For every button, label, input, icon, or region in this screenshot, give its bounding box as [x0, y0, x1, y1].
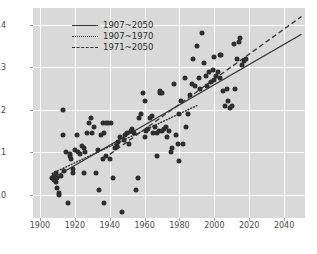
y-tick-label: 12: [0, 106, 6, 115]
chart-figure: 1907~2050 1907~1970 1971~2050 1011121314…: [0, 0, 317, 254]
data-point: [186, 112, 191, 117]
data-point: [88, 116, 93, 121]
data-point: [205, 84, 210, 89]
data-point: [132, 131, 137, 136]
x-tick-mark: [249, 218, 250, 221]
data-point: [137, 116, 142, 121]
data-point: [111, 175, 116, 180]
data-point: [109, 120, 114, 125]
data-point: [60, 107, 65, 112]
legend-label: 1907~2050: [103, 21, 153, 30]
data-point: [191, 56, 196, 61]
data-point: [154, 154, 159, 159]
data-point: [177, 112, 182, 117]
data-point: [196, 76, 201, 81]
data-point: [65, 201, 70, 206]
data-point: [177, 158, 182, 163]
data-point: [60, 133, 65, 138]
y-tick-label: 13: [0, 63, 6, 72]
data-point: [233, 86, 238, 91]
data-point: [167, 129, 172, 134]
data-point: [217, 76, 222, 81]
data-point: [170, 146, 175, 151]
data-point: [146, 126, 151, 131]
data-point: [53, 179, 58, 184]
data-point: [236, 39, 241, 44]
legend-swatch-solid-icon: [72, 21, 98, 30]
legend-swatch-dotted-icon: [72, 32, 98, 41]
data-point: [194, 44, 199, 49]
data-point: [142, 135, 147, 140]
data-point: [71, 171, 76, 176]
y-tick-label: 11: [0, 148, 6, 157]
data-point: [62, 169, 67, 174]
data-point: [172, 82, 177, 87]
data-point: [219, 52, 224, 57]
plot-area: 1907~2050 1907~1970 1971~2050: [33, 8, 305, 218]
y-tick-mark: [30, 195, 33, 196]
data-point: [107, 156, 112, 161]
x-tick-mark: [110, 218, 111, 221]
data-point: [140, 90, 145, 95]
data-point: [78, 152, 83, 157]
x-tick-mark: [284, 218, 285, 221]
data-point: [102, 201, 107, 206]
data-point: [229, 103, 234, 108]
data-point: [97, 188, 102, 193]
y-tick-mark: [30, 110, 33, 111]
x-tick-mark: [75, 218, 76, 221]
data-point: [57, 192, 62, 197]
data-point: [243, 56, 248, 61]
data-point: [231, 42, 236, 47]
y-tick-label: 14: [0, 21, 6, 30]
data-point: [83, 150, 88, 155]
data-point: [58, 173, 63, 178]
x-tick-mark: [179, 218, 180, 221]
data-point: [160, 90, 165, 95]
data-point: [69, 156, 74, 161]
legend-label: 1971~2050: [103, 43, 153, 52]
data-point: [142, 99, 147, 104]
data-point: [149, 114, 154, 119]
data-point: [74, 133, 79, 138]
data-point: [201, 61, 206, 66]
data-point: [165, 135, 170, 140]
data-point: [200, 31, 205, 36]
data-point: [224, 86, 229, 91]
data-point: [119, 209, 124, 214]
data-point: [93, 171, 98, 176]
legend-item: 1907~2050: [72, 21, 153, 30]
y-tick-mark: [30, 67, 33, 68]
data-point: [180, 141, 185, 146]
legend-swatch-dashed-icon: [72, 43, 98, 52]
data-point: [182, 76, 187, 81]
data-point: [203, 73, 208, 78]
data-point: [139, 112, 144, 117]
data-point: [238, 35, 243, 40]
y-tick-label: 10: [0, 191, 6, 200]
x-tick-mark: [40, 218, 41, 221]
data-point: [102, 131, 107, 136]
data-point: [179, 99, 184, 104]
data-point: [187, 92, 192, 97]
x-tick-mark: [145, 218, 146, 221]
y-tick-mark: [30, 25, 33, 26]
data-point: [198, 86, 203, 91]
y-tick-mark: [30, 152, 33, 153]
data-point: [90, 131, 95, 136]
data-point: [240, 63, 245, 68]
data-point: [133, 188, 138, 193]
data-point: [126, 141, 131, 146]
data-point: [235, 56, 240, 61]
x-tick-mark: [214, 218, 215, 221]
data-point: [81, 171, 86, 176]
chart-legend: 1907~2050 1907~1970 1971~2050: [69, 19, 156, 54]
data-point: [184, 124, 189, 129]
data-point: [173, 133, 178, 138]
legend-item: 1907~1970: [72, 32, 153, 41]
data-point: [95, 148, 100, 153]
data-point: [92, 124, 97, 129]
legend-label: 1907~1970: [103, 32, 153, 41]
legend-item: 1971~2050: [72, 43, 153, 52]
data-point: [215, 69, 220, 74]
